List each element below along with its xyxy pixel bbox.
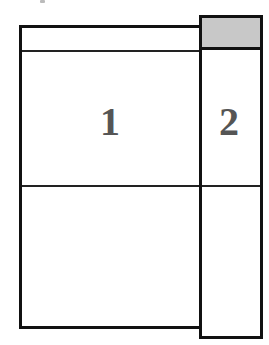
panel-2-label: 2 (219, 102, 239, 142)
panel-1-middle-divider (22, 185, 199, 187)
panel-1: 1 (19, 25, 202, 329)
panel-2-middle-divider (202, 185, 260, 187)
panel-2-shaded-header (202, 18, 260, 50)
panel-2: 2 (199, 15, 263, 339)
panel-1-label: 1 (100, 102, 120, 142)
panel-1-header-divider (22, 50, 199, 52)
stray-mark (40, 0, 45, 3)
